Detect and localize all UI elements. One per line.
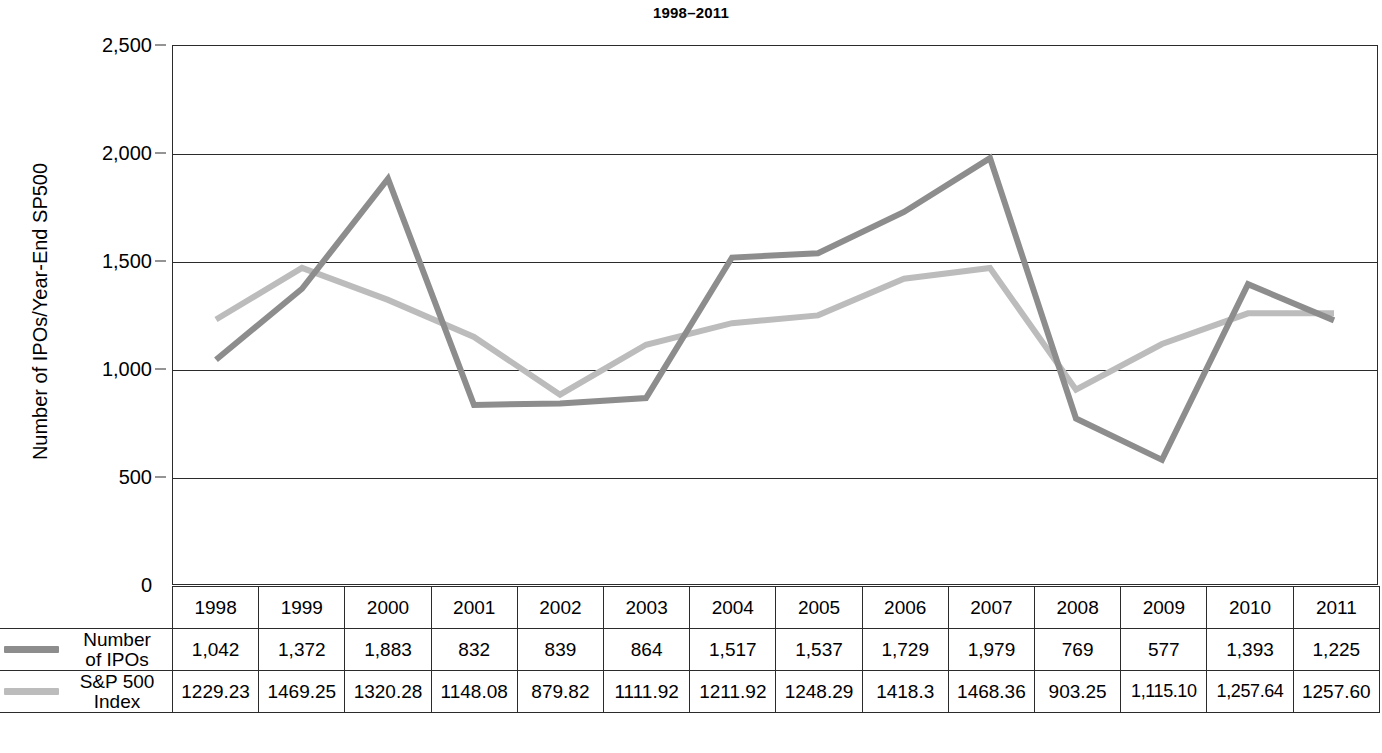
table-ipos-2002: 839 xyxy=(517,629,603,671)
row-label-ipos-line1: Number xyxy=(62,630,172,650)
table-sp500-2009: 1,115.10 xyxy=(1121,671,1207,713)
table-ipos-1998: 1,042 xyxy=(173,629,259,671)
table-row-sp500: S&P 500 Index 1229.231469.251320.281148.… xyxy=(0,671,1380,713)
row-label-ipos-line2: of IPOs xyxy=(62,650,172,670)
table-sp500-1999: 1469.25 xyxy=(259,671,345,713)
y-axis-title: Number of IPOs/Year-End SP500 xyxy=(29,82,52,542)
y-tick-label-1500: 1,500 xyxy=(102,250,152,273)
table-ipos-2009: 577 xyxy=(1121,629,1207,671)
legend-swatch-ipos-icon xyxy=(4,646,59,653)
row-label-ipos: Number of IPOs xyxy=(62,629,173,671)
table-sp500-1998: 1229.23 xyxy=(173,671,259,713)
y-tick-mark-2000 xyxy=(155,153,166,154)
chart-title: 1998–2011 xyxy=(0,4,1382,21)
table-sp500-2003: 1111.92 xyxy=(604,671,690,713)
table-ipos-2007: 1,979 xyxy=(948,629,1034,671)
table-sp500-2007: 1468.36 xyxy=(948,671,1034,713)
y-tick-label-2500: 2,500 xyxy=(102,34,152,57)
table-sp500-2008: 903.25 xyxy=(1035,671,1121,713)
table-ipos-2004: 1,517 xyxy=(690,629,776,671)
table-year-2007: 2007 xyxy=(948,587,1034,629)
table-sp500-2004: 1211.92 xyxy=(690,671,776,713)
table-ipos-2001: 832 xyxy=(431,629,517,671)
table-ipos-2006: 1,729 xyxy=(862,629,948,671)
row-label-sp500-line1: S&P 500 xyxy=(62,672,172,692)
table-year-2002: 2002 xyxy=(517,587,603,629)
table-ipos-1999: 1,372 xyxy=(259,629,345,671)
table-year-2001: 2001 xyxy=(431,587,517,629)
table-sp500-2006: 1418.3 xyxy=(862,671,948,713)
table-year-2009: 2009 xyxy=(1121,587,1207,629)
legend-swatch-sp500-icon xyxy=(4,688,59,695)
y-tick-mark-2500 xyxy=(155,45,166,46)
table-sp500-2001: 1148.08 xyxy=(431,671,517,713)
table-year-2005: 2005 xyxy=(776,587,862,629)
table-ipos-2005: 1,537 xyxy=(776,629,862,671)
table-year-2000: 2000 xyxy=(345,587,431,629)
series-line-ipos xyxy=(216,158,1334,460)
table-ipos-2011: 1,225 xyxy=(1293,629,1379,671)
table-year-1999: 1999 xyxy=(259,587,345,629)
row-label-sp500-line2: Index xyxy=(62,692,172,712)
table-ipos-2010: 1,393 xyxy=(1207,629,1293,671)
row-label-sp500: S&P 500 Index xyxy=(62,671,173,713)
y-tick-label-1000: 1,000 xyxy=(102,358,152,381)
legend-swatch-ipos-cell xyxy=(0,629,62,671)
y-tick-label-500: 500 xyxy=(119,466,152,489)
table-header-row: 1998199920002001200220032004200520062007… xyxy=(0,587,1380,629)
table-ipos-2008: 769 xyxy=(1035,629,1121,671)
corner-blank-swatch xyxy=(0,587,62,629)
table-year-1998: 1998 xyxy=(173,587,259,629)
table-year-2010: 2010 xyxy=(1207,587,1293,629)
table-sp500-2002: 879.82 xyxy=(517,671,603,713)
y-tick-mark-1000 xyxy=(155,369,166,370)
y-tick-mark-1500 xyxy=(155,261,166,262)
table-year-2006: 2006 xyxy=(862,587,948,629)
table-sp500-2000: 1320.28 xyxy=(345,671,431,713)
table-year-2003: 2003 xyxy=(604,587,690,629)
legend-swatch-sp500-cell xyxy=(0,671,62,713)
plot-area xyxy=(172,45,1378,585)
table-ipos-2000: 1,883 xyxy=(345,629,431,671)
table-sp500-2005: 1248.29 xyxy=(776,671,862,713)
table-year-2004: 2004 xyxy=(690,587,776,629)
table-year-2011: 2011 xyxy=(1293,587,1379,629)
corner-blank-label xyxy=(62,587,173,629)
y-tick-mark-500 xyxy=(155,477,166,478)
table-ipos-2003: 864 xyxy=(604,629,690,671)
series-line-sp500 xyxy=(216,268,1334,395)
y-axis: Number of IPOs/Year-End SP500 05001,0001… xyxy=(0,45,166,585)
table-sp500-2010: 1,257.64 xyxy=(1207,671,1293,713)
data-table: 1998199920002001200220032004200520062007… xyxy=(0,586,1380,713)
series-lines xyxy=(173,46,1377,584)
table-sp500-2011: 1257.60 xyxy=(1293,671,1379,713)
table-year-2008: 2008 xyxy=(1035,587,1121,629)
table-row-ipos: Number of IPOs 1,0421,3721,8838328398641… xyxy=(0,629,1380,671)
y-tick-label-2000: 2,000 xyxy=(102,142,152,165)
